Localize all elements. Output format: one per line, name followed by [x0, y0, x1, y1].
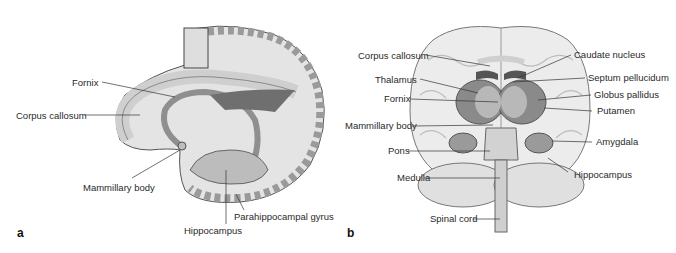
label-medulla: Medulla	[397, 172, 430, 183]
label-spinal-cord: Spinal cord	[430, 213, 478, 224]
panel-a: Fornix Corpus callosum Mammillary body P…	[0, 0, 338, 253]
label-fornix: Fornix	[384, 93, 410, 104]
label-hippocampus: Hippocampus	[184, 225, 242, 236]
label-amygdala: Amygdala	[596, 136, 638, 147]
label-putamen: Putamen	[597, 105, 635, 116]
label-pons: Pons	[388, 145, 410, 156]
label-caudate-nucleus: Caudate nucleus	[574, 49, 645, 60]
label-septum-pellucidum: Septum pellucidum	[588, 72, 669, 83]
label-parahippocampal-gyrus: Parahippocampal gyrus	[234, 211, 334, 222]
label-globus-pallidus: Globus pallidus	[594, 89, 659, 100]
label-hippocampus: Hippocampus	[574, 169, 632, 180]
label-corpus-callosum: Corpus callosum	[358, 50, 429, 61]
label-mammillary-body: Mammillary body	[345, 120, 417, 131]
label-mammillary-body: Mammillary body	[83, 182, 155, 193]
panel-b: Corpus callosum Thalamus Fornix Mammilla…	[338, 0, 676, 253]
panel-letter-a: a	[17, 226, 24, 240]
label-fornix: Fornix	[72, 77, 98, 88]
label-corpus-callosum: Corpus callosum	[16, 110, 87, 121]
panel-letter-b: b	[347, 226, 354, 240]
label-thalamus: Thalamus	[375, 74, 417, 85]
